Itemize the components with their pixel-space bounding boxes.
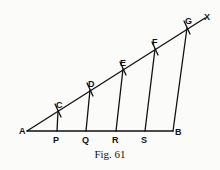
label-d: D	[88, 79, 95, 89]
line-gb	[173, 28, 187, 131]
label-b: B	[175, 127, 182, 137]
line-dq	[86, 90, 90, 131]
label-e: E	[120, 58, 126, 68]
label-s: S	[141, 135, 147, 145]
figure-caption: Fig. 61	[94, 148, 125, 160]
label-q: Q	[82, 135, 89, 145]
label-r: R	[112, 135, 119, 145]
ray-ax	[27, 18, 205, 131]
label-x: X	[204, 12, 210, 22]
line-cp	[57, 111, 58, 131]
figure-container: A B X C D E F G P Q R S Fig. 61	[0, 0, 220, 170]
label-f: F	[152, 37, 158, 47]
line-fs	[145, 49, 155, 131]
label-c: C	[56, 100, 63, 110]
label-g: G	[185, 16, 192, 26]
label-p: P	[53, 135, 59, 145]
label-a: A	[19, 126, 26, 136]
geometry-diagram: A B X C D E F G P Q R S Fig. 61	[0, 0, 220, 170]
line-er	[116, 69, 123, 131]
